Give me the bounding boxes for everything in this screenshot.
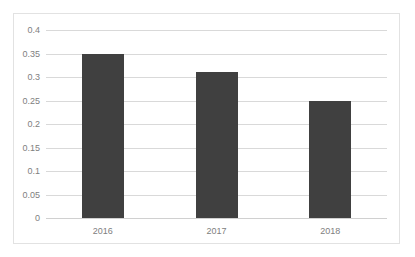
plot-area: 0.40.350.30.250.20.150.10.050 2016201720…: [46, 30, 387, 218]
x-axis-tick-label: 2016: [93, 227, 113, 236]
y-axis-tick-label: 0.1: [27, 167, 40, 176]
y-axis-tick-label: 0: [35, 214, 40, 223]
bar-2016[interactable]: [82, 54, 124, 219]
axis-baseline: [46, 218, 387, 219]
chart-frame: 0.40.350.30.250.20.150.10.050 2016201720…: [13, 13, 400, 244]
x-axis-tick-label: 2018: [320, 227, 340, 236]
bar-series: [46, 30, 387, 218]
bar-2017[interactable]: [196, 72, 238, 218]
y-axis-tick-label: 0.2: [27, 120, 40, 129]
y-axis-tick-label: 0.05: [22, 190, 40, 199]
y-axis-tick-label: 0.35: [22, 49, 40, 58]
y-axis-tick-label: 0.25: [22, 96, 40, 105]
y-axis-tick-label: 0.4: [27, 26, 40, 35]
y-axis-tick-label: 0.3: [27, 73, 40, 82]
y-axis-tick-label: 0.15: [22, 143, 40, 152]
x-axis-tick-label: 2017: [206, 227, 226, 236]
bar-2018[interactable]: [309, 101, 351, 219]
